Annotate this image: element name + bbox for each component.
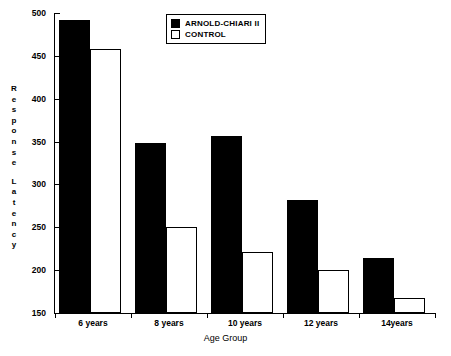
x-axis-line	[54, 313, 436, 314]
y-axis-tick-label: 300	[8, 179, 46, 189]
x-axis-tick-label: 8 years	[131, 318, 207, 328]
bar-case	[363, 258, 394, 313]
legend-label: CONTROL	[185, 30, 226, 39]
y-axis-title-letter: o	[12, 126, 17, 137]
x-axis-title: Age Group	[0, 333, 451, 343]
y-axis-tick-label: 500	[8, 8, 46, 18]
y-axis-tick-label: 400	[8, 94, 46, 104]
filled-square-icon	[171, 19, 180, 28]
y-axis-title-letter: s	[12, 148, 16, 159]
y-axis-line	[54, 13, 55, 314]
x-axis-tick-label: 14years	[359, 318, 435, 328]
bar-case	[135, 143, 166, 313]
legend: ARNOLD-CHIARI II CONTROL	[166, 14, 266, 44]
bar-case	[211, 136, 242, 313]
y-axis-tick-label: 350	[8, 137, 46, 147]
bar-chart: ResponseLatency 150200250300350400450500…	[0, 0, 451, 356]
y-axis-tick-label: 450	[8, 51, 46, 61]
legend-item: CONTROL	[171, 29, 259, 40]
bar-control	[242, 252, 273, 313]
x-axis-tick-label: 12 years	[283, 318, 359, 328]
hollow-square-icon	[171, 30, 180, 39]
y-axis-tick-label: 150	[8, 308, 46, 318]
bar-control	[166, 227, 197, 313]
y-axis-title-letter: p	[12, 116, 17, 127]
bar-control	[394, 298, 425, 313]
y-axis-tick-label: 250	[8, 222, 46, 232]
y-axis-tick-mark	[55, 13, 60, 14]
y-axis-tick-label: 200	[8, 265, 46, 275]
bar-control	[318, 270, 349, 313]
bar-case	[287, 200, 318, 313]
bar-control	[90, 49, 121, 313]
y-axis-title-letter: y	[12, 240, 16, 251]
y-axis-title-letter: s	[12, 105, 16, 116]
legend-label: ARNOLD-CHIARI II	[185, 19, 259, 28]
x-axis-tick-label: 10 years	[207, 318, 283, 328]
y-axis-title-letter: e	[12, 158, 16, 169]
bar-case	[59, 20, 90, 313]
legend-item: ARNOLD-CHIARI II	[171, 18, 259, 29]
y-axis-title-letter: t	[13, 198, 16, 209]
x-axis-tick-mark	[435, 313, 436, 318]
y-axis-title-letter: e	[12, 209, 16, 220]
x-axis-tick-label: 6 years	[55, 318, 131, 328]
x-axis-tick-mark	[55, 313, 56, 318]
